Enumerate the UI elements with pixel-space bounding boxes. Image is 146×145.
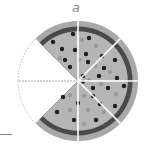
pizza-diagram: [0, 0, 146, 145]
left-dash-mark: [0, 134, 12, 135]
